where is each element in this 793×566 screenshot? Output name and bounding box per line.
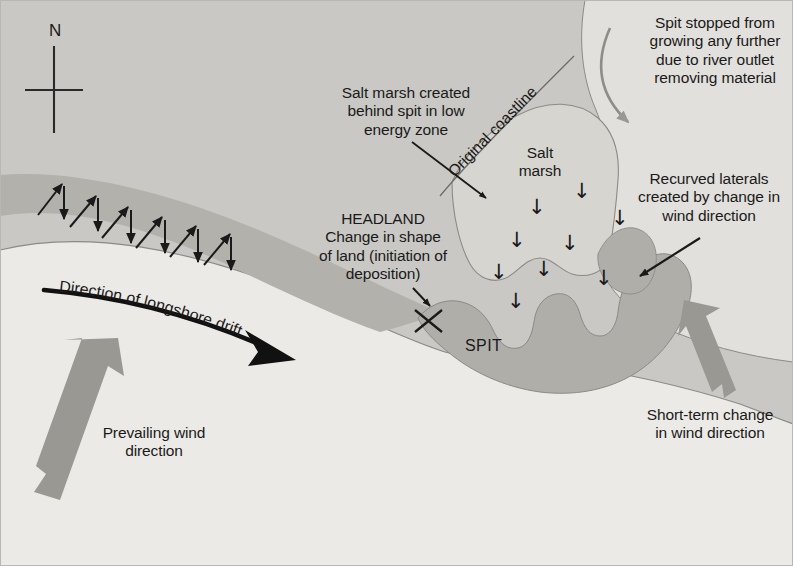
marsh-vegetation-arrow-5: ↓ xyxy=(490,262,508,283)
headland-label: HEADLAND Change in shape of land (initia… xyxy=(291,210,475,283)
spit-formation-diagram: Direction of longshore drift Original co… xyxy=(0,0,793,566)
marsh-vegetation-arrow-7: ↓ xyxy=(595,268,613,289)
marsh-vegetation-arrow-8: ↓ xyxy=(507,291,525,312)
spit-stopped-label: Spit stopped from growing any further du… xyxy=(639,14,791,87)
short-term-change-label: Short-term change in wind direction xyxy=(630,406,790,443)
compass-north-label: N xyxy=(44,21,66,41)
spit-label: SPIT xyxy=(465,337,525,356)
salt-marsh-label: Salt marsh xyxy=(495,144,585,181)
marsh-vegetation-arrow-4: ↓ xyxy=(561,233,579,254)
recurved-laterals-label: Recurved laterals created by change in w… xyxy=(629,170,789,225)
salt-marsh-note-label: Salt marsh created behind spit in low en… xyxy=(306,84,506,139)
marsh-vegetation-arrow-6: ↓ xyxy=(535,259,553,280)
marsh-vegetation-arrow-0: ↓ xyxy=(573,181,591,202)
prevailing-wind-label: Prevailing wind direction xyxy=(84,424,224,461)
marsh-vegetation-arrow-1: ↓ xyxy=(528,197,546,218)
marsh-vegetation-arrow-3: ↓ xyxy=(508,230,526,251)
marsh-vegetation-arrow-2: ↓ xyxy=(611,208,629,229)
